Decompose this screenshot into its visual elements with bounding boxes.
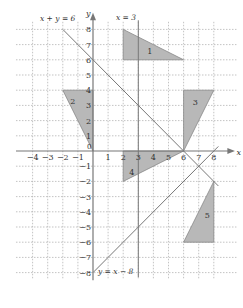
y-tick-label: −8 [79,269,91,278]
x-tick-label: 8 [211,153,216,162]
origin-label: 0 [87,143,91,151]
y-tick-label: 3 [86,101,91,110]
x-tick-label: 3 [136,153,141,162]
line-label-y-eq-x-minus-8: y = x − 8 [97,267,134,276]
y-tick-label: 8 [86,25,91,34]
x-tick-label: 4 [151,153,156,162]
x-tick-label: 6 [181,153,186,162]
y-tick-label: 7 [86,41,91,50]
shape-label-2: 2 [70,97,75,106]
x-tick-label: 5 [166,153,171,162]
x-tick-label: 1 [106,153,111,162]
y-tick-label: −2 [79,177,91,186]
y-tick-label: 4 [86,86,91,95]
y-tick-label: −5 [79,223,91,232]
y-axis-label: y [85,9,91,18]
shape-label-5: 5 [205,211,210,220]
shape-label-1: 1 [147,47,152,56]
x-tick-label: −2 [57,153,69,162]
y-tick-label: −1 [79,162,91,171]
x-axis-label: x [236,148,241,157]
y-tick-label: 6 [86,56,91,65]
x-tick-label: 2 [121,153,126,162]
y-tick-label: −4 [79,208,91,217]
x-axis-arrow-icon [227,148,235,154]
x-tick-label: −4 [27,153,39,162]
line-label-x-plus-y: x + y = 6 [40,14,76,23]
shape-label-4: 4 [129,168,134,177]
x-tick-label: −3 [42,153,54,162]
y-tick-label: 2 [86,117,91,126]
y-tick-label: −3 [79,193,91,202]
line-label-x-eq-3: x = 3 [116,13,136,22]
shape-label-3: 3 [193,98,198,107]
y-tick-label: 1 [86,132,91,141]
x-tick-label: −1 [72,153,84,162]
coordinate-plane: xy−4−3−2−101234567887654321−1−2−3−4−5−6−… [0,0,243,308]
y-tick-label: 5 [86,71,91,80]
y-axis-arrow-icon [90,13,96,21]
y-tick-label: −6 [79,238,91,247]
x-tick-label: 7 [196,153,201,162]
y-tick-label: −7 [79,253,91,262]
